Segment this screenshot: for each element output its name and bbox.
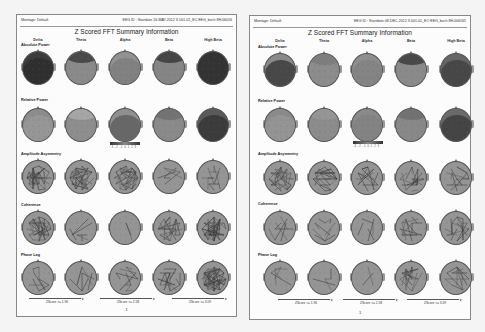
- column-header-delta: Delta: [260, 39, 300, 43]
- topomap-amplitude-asymmetry-beta: [151, 158, 187, 195]
- topomap-absolute-power-beta: [151, 49, 187, 86]
- topomap-coherence-beta: [151, 209, 187, 246]
- zscore-legend-3: ▸ZScore >= 3.09: [407, 298, 463, 304]
- head-outline: [197, 108, 229, 142]
- zscore-label-2: ZScore >= 2.58: [343, 301, 399, 305]
- head-outline: [351, 211, 383, 245]
- head-outline: [264, 53, 296, 87]
- topomap-phase-lag-beta: [151, 259, 187, 296]
- topomap-absolute-power-high-beta: [195, 49, 231, 86]
- head-outline: [395, 108, 427, 142]
- head-outline: [351, 261, 383, 295]
- column-header-alpha: Alpha: [105, 38, 145, 42]
- montage-label: Montage: Default: [21, 18, 48, 22]
- head-outline: [109, 261, 141, 295]
- head-outline: [197, 160, 229, 194]
- topomap-absolute-power-delta: [262, 51, 298, 88]
- head-outline: [65, 160, 97, 194]
- topomap-coherence-beta: [393, 209, 429, 246]
- head-outline: [197, 51, 229, 85]
- head-outline: [395, 211, 427, 245]
- topomap-phase-lag-alpha: [349, 259, 385, 296]
- head-outline: [308, 211, 340, 245]
- topomap-coherence-delta: [20, 209, 56, 246]
- topomap-absolute-power-high-beta: [438, 51, 474, 88]
- row-label-phase-lag: Phase Lag: [258, 253, 277, 257]
- zscore-label-2: ZScore >= 2.58: [100, 300, 156, 304]
- topomap-coherence-alpha: [349, 209, 385, 246]
- topomap-relative-power-alpha: [349, 106, 385, 143]
- head-outline: [440, 53, 472, 87]
- head-outline: [395, 161, 427, 195]
- row-label-coherence: Coherence: [258, 202, 278, 206]
- page-header: Montage: Default EEG ID : Startdate 08-D…: [254, 19, 466, 27]
- head-outline: [153, 108, 185, 142]
- topomap-relative-power-beta: [393, 106, 429, 143]
- head-outline: [351, 161, 383, 195]
- head-outline: [109, 51, 141, 85]
- head-outline: [153, 261, 185, 295]
- topomap-absolute-power-beta: [393, 51, 429, 88]
- topomap-amplitude-asymmetry-theta: [63, 158, 99, 195]
- page-number: 1: [250, 310, 470, 315]
- head-outline: [395, 53, 427, 87]
- topomap-relative-power-high-beta: [438, 106, 474, 143]
- topomap-amplitude-asymmetry-theta: [306, 159, 342, 196]
- topomap-amplitude-asymmetry-high-beta: [195, 158, 231, 195]
- zscore-legend-1: ▸ZScore >= 1.96: [278, 298, 334, 304]
- zscore-legend-2: ▸ZScore >= 2.58: [343, 298, 399, 304]
- topomap-amplitude-asymmetry-alpha: [107, 158, 143, 195]
- eeg-id-label: EEG ID : Startdate 16-MAY-2012 X.001.01_…: [123, 18, 232, 22]
- head-outline: [351, 53, 383, 87]
- page-number: 1: [17, 307, 236, 312]
- topomap-absolute-power-theta: [306, 51, 342, 88]
- topomap-coherence-delta: [262, 209, 298, 246]
- report-page-right: Montage: Default EEG ID : Startdate 08-D…: [249, 15, 471, 320]
- row-label-amplitude-asymmetry: Amplitude Asymmetry: [258, 152, 298, 156]
- row-label-phase-lag: Phase Lag: [21, 253, 40, 257]
- column-header-beta: Beta: [391, 39, 431, 43]
- row-label-absolute-power: Absolute Power: [258, 45, 287, 49]
- head-outline: [308, 108, 340, 142]
- column-header-theta: Theta: [61, 38, 101, 42]
- topomap-relative-power-alpha: [107, 106, 143, 143]
- zscore-label-3: ZScore >= 3.09: [172, 300, 228, 304]
- topomap-amplitude-asymmetry-delta: [20, 158, 56, 195]
- head-outline: [22, 160, 54, 194]
- header-divider: [20, 26, 233, 27]
- head-outline: [395, 261, 427, 295]
- head-outline: [197, 261, 229, 295]
- topomap-phase-lag-high-beta: [195, 259, 231, 296]
- topomap-amplitude-asymmetry-beta: [393, 159, 429, 196]
- head-outline: [22, 51, 54, 85]
- topomap-phase-lag-beta: [393, 259, 429, 296]
- topomap-relative-power-high-beta: [195, 106, 231, 143]
- topomap-coherence-high-beta: [195, 209, 231, 246]
- topomap-relative-power-delta: [262, 106, 298, 143]
- zscore-label-3: ZScore >= 3.09: [407, 301, 463, 305]
- head-outline: [264, 211, 296, 245]
- head-outline: [22, 261, 54, 295]
- topomap-coherence-high-beta: [438, 209, 474, 246]
- topomap-phase-lag-high-beta: [438, 259, 474, 296]
- topomap-amplitude-asymmetry-alpha: [349, 159, 385, 196]
- colorbar-ticks: -3 -2 -1 0 1 2 3: [110, 146, 140, 149]
- topomap-relative-power-theta: [306, 106, 342, 143]
- head-outline: [22, 211, 54, 245]
- head-outline: [440, 161, 472, 195]
- head-outline: [65, 211, 97, 245]
- topomap-phase-lag-theta: [306, 259, 342, 296]
- header-divider: [253, 27, 467, 28]
- column-header-alpha: Alpha: [347, 39, 387, 43]
- column-header-high-beta: High Beta: [193, 38, 233, 42]
- topomap-relative-power-beta: [151, 106, 187, 143]
- column-header-high-beta: High Beta: [436, 39, 476, 43]
- column-header-theta: Theta: [304, 39, 344, 43]
- head-outline: [440, 211, 472, 245]
- zscore-legend-1: ▸ZScore >= 1.96: [29, 297, 85, 303]
- report-page-left: Montage: Default EEG ID : Startdate 16-M…: [16, 14, 237, 317]
- head-outline: [65, 108, 97, 142]
- head-outline: [109, 160, 141, 194]
- column-header-delta: Delta: [18, 38, 58, 42]
- head-outline: [65, 51, 97, 85]
